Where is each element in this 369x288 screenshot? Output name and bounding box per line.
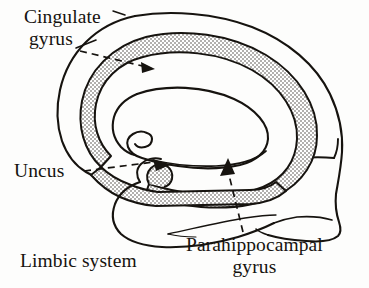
label-uncus-line1: Uncus: [14, 160, 64, 181]
label-cingulate-gyrus: Cingulate gyrus: [24, 6, 101, 50]
label-parahippocampal-line1: Parahippocampal: [186, 234, 323, 255]
corpus-callosum: [113, 88, 268, 168]
figure-caption: Limbic system: [20, 250, 137, 272]
label-cingulate-line2: gyrus: [24, 28, 101, 50]
label-parahippocampal-gyrus: Parahippocampal gyrus: [186, 234, 323, 278]
limbic-system-figure: Cingulate gyrus Uncus Parahippocampal gy…: [0, 0, 369, 288]
label-uncus: Uncus: [14, 160, 64, 182]
label-cingulate-line1: Cingulate: [24, 6, 101, 27]
figure-caption-text: Limbic system: [20, 250, 137, 271]
label-parahippocampal-line2: gyrus: [186, 256, 323, 278]
